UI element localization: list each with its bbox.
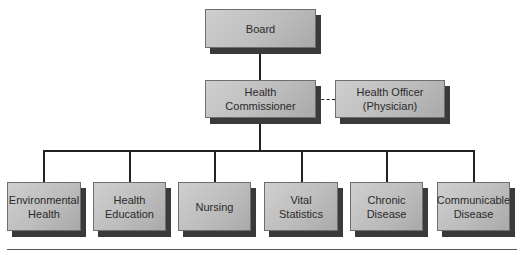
drop-nursing <box>214 150 216 182</box>
communicable-disease-label: Communicable Disease <box>437 193 510 221</box>
drop-communicable-disease <box>473 150 475 182</box>
drop-chronic-disease <box>386 150 388 182</box>
board-label: Board <box>246 22 275 36</box>
drop-vital-statistics <box>301 150 303 182</box>
communicable-disease-box: Communicable Disease <box>437 182 510 231</box>
connector-board-commissioner <box>259 48 261 80</box>
drop-environmental-health <box>43 150 45 182</box>
dashed-connector-health-officer <box>316 99 335 100</box>
bottom-divider <box>7 249 517 250</box>
drop-health-education <box>129 150 131 182</box>
health-education-label: Health Education <box>105 193 154 221</box>
health-officer-box: Health Officer (Physician) <box>335 80 445 118</box>
environmental-health-box: Environmental Health <box>7 182 81 231</box>
health-officer-label: Health Officer (Physician) <box>356 85 423 113</box>
health-commissioner-label: Health Commissioner <box>225 85 295 113</box>
connector-commissioner-bus <box>259 118 261 150</box>
chronic-disease-label: Chronic Disease <box>367 193 407 221</box>
vital-statistics-box: Vital Statistics <box>264 182 338 231</box>
board-box: Board <box>205 9 316 48</box>
nursing-label: Nursing <box>196 200 234 214</box>
nursing-box: Nursing <box>178 182 251 231</box>
health-education-box: Health Education <box>93 182 166 231</box>
environmental-health-label: Environmental Health <box>9 193 79 221</box>
vital-statistics-label: Vital Statistics <box>279 193 323 221</box>
department-bus <box>43 150 474 152</box>
health-commissioner-box: Health Commissioner <box>205 80 316 118</box>
chronic-disease-box: Chronic Disease <box>350 182 423 231</box>
